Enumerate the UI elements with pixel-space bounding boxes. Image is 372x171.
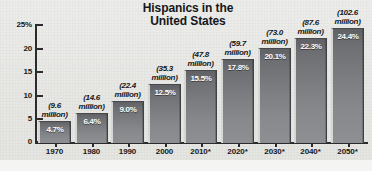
bar-value-label-1970: 4.7% [40,125,70,134]
bar-population-label-2020: (59.7million) [217,39,258,57]
bar-population-label-1970: (9.6million) [34,101,75,119]
population-label-line-1: (9.6 [34,101,75,110]
population-label-line-1: (35.3 [144,64,185,73]
population-label-line-2: million) [217,48,258,57]
y-axis-label-25: 25% [4,20,32,29]
y-tick-25 [37,24,43,26]
y-axis-label-0: 0 [4,137,32,146]
bar-value-label-1980: 6.4% [77,117,107,126]
y-tick-20 [37,48,43,50]
bar-value-label-2020: 17.8% [223,63,253,72]
population-label-line-2: million) [107,90,148,99]
population-label-line-1: (47.8 [180,50,221,59]
population-label-line-2: million) [34,110,75,119]
bar-value-label-2030: 20.1% [260,52,290,61]
bar-value-label-2000: 12.5% [150,88,180,97]
population-label-line-1: (59.7 [217,39,258,48]
population-label-line-1: (22.4 [107,81,148,90]
population-label-line-1: (73.0 [254,28,295,37]
population-label-line-2: million) [254,37,295,46]
bar-population-label-2000: (35.3million) [144,64,185,82]
y-axis-label-5: 5 [4,114,32,123]
y-axis-label-10: 10 [4,91,32,100]
bar-2030: 20.1% [258,48,291,143]
population-label-line-2: million) [71,102,112,111]
bar-2010: 15.5% [184,70,217,143]
bar-2050: 24.4% [331,28,364,143]
y-tick-10 [37,95,43,97]
population-label-line-2: million) [290,27,331,36]
bottom-strip [0,160,372,171]
chart-container: Hispanics in the United States 25% 20 15… [0,0,372,171]
y-axis-label-20: 20 [4,44,32,53]
chart-title-line-2: United States [96,15,280,28]
bar-value-label-2010: 15.5% [186,74,216,83]
bar-2020: 17.8% [221,59,254,143]
bar-value-label-2040: 22.3% [296,42,326,51]
bar-population-label-1980: (14.6million) [71,93,112,111]
x-axis-label-2050: 2050* [325,147,370,156]
y-tick-15 [37,71,43,73]
bar-1980: 6.4% [75,113,108,143]
population-label-line-2: million) [327,17,368,26]
bar-1990: 9.0% [111,101,144,143]
population-label-line-2: million) [144,73,185,82]
bar-population-label-2050: (102.6million) [327,8,368,26]
bar-1970: 4.7% [38,121,71,143]
y-axis-line [35,24,37,144]
bar-value-label-2050: 24.4% [333,32,363,41]
bar-2040: 22.3% [294,38,327,143]
chart-title: Hispanics in the United States [96,2,280,28]
bar-population-label-2010: (47.8million) [180,50,221,68]
y-axis-label-15: 15 [4,67,32,76]
bar-population-label-2040: (87.6million) [290,18,331,36]
population-label-line-1: (102.6 [327,8,368,17]
population-label-line-2: million) [180,59,221,68]
bar-population-label-2030: (73.0million) [254,28,295,46]
bar-2000: 12.5% [148,84,181,143]
population-label-line-1: (87.6 [290,18,331,27]
population-label-line-1: (14.6 [71,93,112,102]
bar-value-label-1990: 9.0% [113,105,143,114]
bar-population-label-1990: (22.4million) [107,81,148,99]
